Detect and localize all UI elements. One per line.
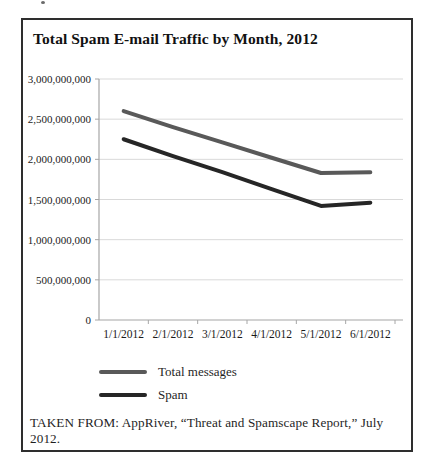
legend-swatch-spam-icon: [99, 393, 147, 397]
figure-box: Total Spam E-mail Traffic by Month, 2012…: [21, 18, 413, 452]
y-tick-label: 1,000,000,000: [28, 234, 92, 246]
y-tick-label: 2,000,000,000: [28, 153, 92, 165]
legend: Total messages Spam: [99, 360, 237, 406]
y-tick-label: 2,500,000,000: [28, 113, 92, 125]
source-note: TAKEN FROM: AppRiver, “Threat and Spamsc…: [30, 415, 408, 447]
y-tick-label: 0: [86, 314, 92, 326]
x-tick-label: 5/1/2012: [301, 328, 342, 340]
x-tick-label: 6/1/2012: [350, 328, 391, 340]
x-tick-label: 2/1/2012: [153, 328, 194, 340]
y-tick-label: 1,500,000,000: [28, 194, 92, 206]
y-tick-label: 3,000,000,000: [28, 73, 92, 85]
legend-item-spam: Spam: [99, 383, 237, 406]
line-chart: 0500,000,0001,000,000,0001,500,000,0002,…: [23, 64, 411, 354]
x-tick-label: 1/1/2012: [103, 328, 144, 340]
series-line-total-messages: [124, 111, 371, 173]
chart-title: Total Spam E-mail Traffic by Month, 2012: [33, 30, 318, 48]
legend-item-total-messages: Total messages: [99, 360, 237, 383]
legend-label-total-messages: Total messages: [158, 364, 237, 380]
stray-mark: [41, 1, 45, 4]
legend-label-spam: Spam: [158, 387, 188, 403]
x-tick-label: 3/1/2012: [202, 328, 243, 340]
y-tick-label: 500,000,000: [36, 274, 92, 286]
legend-swatch-total-messages-icon: [99, 370, 147, 374]
x-tick-label: 4/1/2012: [251, 328, 292, 340]
